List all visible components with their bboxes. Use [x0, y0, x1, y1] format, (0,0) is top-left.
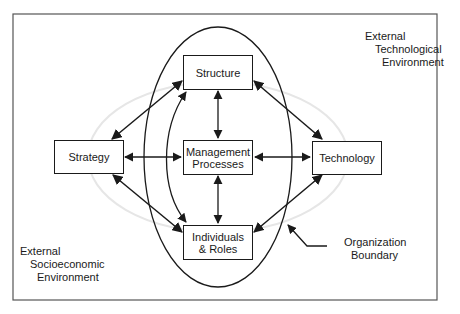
node-management-label-2: Processes — [192, 158, 243, 170]
node-management-processes: Management Processes — [183, 140, 253, 175]
arrow-technology-individuals — [254, 175, 322, 232]
node-technology-label: Technology — [319, 152, 375, 164]
tech-env-line1: External — [365, 30, 405, 43]
node-individuals-label-2: & Roles — [199, 243, 238, 255]
socio-env-line2: Socioeconomic — [30, 258, 105, 271]
arrow-strategy-individuals — [113, 175, 182, 232]
tech-env-line3: Environment — [382, 56, 444, 69]
node-structure: Structure — [183, 55, 253, 90]
node-structure-label: Structure — [196, 67, 241, 79]
node-individuals-roles: Individuals & Roles — [183, 225, 253, 260]
boundary-pointer-arrow — [288, 225, 327, 246]
node-individuals-label-1: Individuals — [192, 231, 244, 243]
boundary-line2: Boundary — [351, 249, 398, 262]
tech-env-line2: Technological — [375, 43, 442, 56]
boundary-line1: Organization — [344, 236, 406, 249]
arrow-strategy-structure — [112, 81, 182, 139]
node-strategy-label: Strategy — [69, 151, 110, 163]
node-management-label-1: Management — [186, 146, 250, 158]
arrow-technology-structure — [254, 81, 322, 139]
socio-env-line1: External — [20, 245, 60, 258]
node-strategy: Strategy — [54, 140, 124, 174]
socio-env-line3: Environment — [37, 271, 99, 284]
node-technology: Technology — [312, 141, 382, 175]
